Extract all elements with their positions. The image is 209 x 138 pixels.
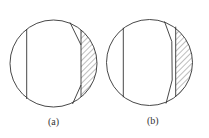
panel-b-hatched-segment: [176, 15, 206, 115]
panel-b-bent-line: [165, 22, 173, 104]
figure-canvas: [0, 0, 209, 138]
panel-a-bottom-slant: [73, 85, 82, 104]
panel-b-diagram: [107, 15, 206, 115]
panel-a-diagram: [10, 15, 111, 115]
panel-a-label: (a): [48, 116, 59, 127]
panel-b-label: (b): [147, 115, 159, 126]
